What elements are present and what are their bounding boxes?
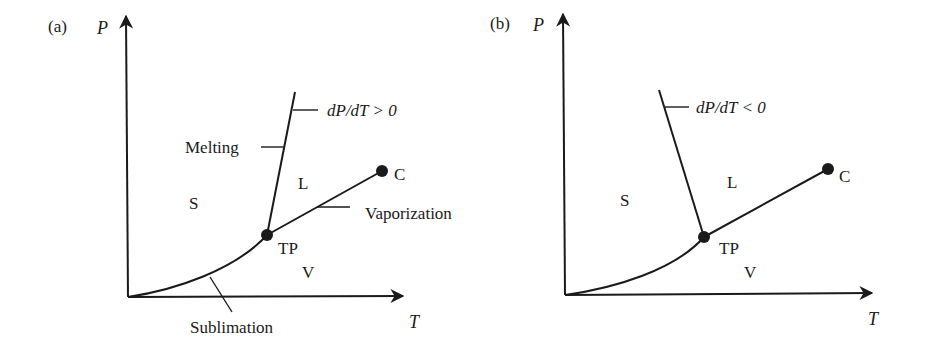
panel-a-x-axis-label: T [409, 312, 421, 332]
panel-a-melting-label: Melting [185, 138, 239, 157]
panel-a-critical-point-label: C [394, 165, 405, 184]
panel-b-critical-point-marker [822, 163, 834, 175]
panel-a-vaporization-label: Vaporization [365, 204, 452, 223]
panel-a-x-axis [128, 296, 403, 297]
phase-diagrams: (a) P T dP/dT > 0 Melting Vaporization S… [0, 0, 927, 346]
panel-b-critical-point-label: C [839, 167, 850, 186]
panel-a-critical-point-marker [376, 165, 388, 177]
panel-b-y-axis-label: P [532, 15, 544, 35]
panel-a-liquid-region-label: L [298, 174, 308, 193]
panel-a-vaporization-curve [267, 171, 382, 235]
panel-a-solid-region-label: S [189, 194, 198, 213]
panel-b-slope-annotation: dP/dT < 0 [696, 98, 766, 117]
panel-a-triple-point-marker [261, 229, 273, 241]
panel-b-sublimation-curve [565, 237, 704, 295]
panel-b-vapor-region-label: V [744, 263, 757, 282]
panel-b-x-axis [565, 293, 872, 295]
panel-a-melting-curve [267, 92, 295, 235]
panel-a-sublimation-leader [210, 277, 232, 312]
panel-a-label: (a) [48, 17, 67, 36]
panel-b-x-axis-label: T [868, 309, 880, 329]
panel-b-y-axis [563, 14, 565, 295]
panel-a: (a) P T dP/dT > 0 Melting Vaporization S… [48, 16, 452, 337]
panel-a-y-axis-label: P [96, 18, 108, 38]
panel-b-triple-point-marker [698, 231, 710, 243]
panel-a-slope-annotation: dP/dT > 0 [327, 101, 397, 120]
panel-b-solid-region-label: S [620, 191, 629, 210]
panel-b-triple-point-label: TP [719, 239, 739, 258]
panel-b: (b) P T dP/dT < 0 L S V TP C [490, 14, 880, 329]
panel-a-sublimation-curve [128, 235, 267, 297]
panel-b-liquid-region-label: L [727, 173, 737, 192]
panel-a-sublimation-label: Sublimation [190, 318, 274, 337]
panel-b-label: (b) [490, 14, 510, 33]
panel-a-triple-point-label: TP [278, 239, 298, 258]
panel-b-vaporization-curve [704, 169, 828, 237]
panel-a-y-axis [126, 16, 128, 297]
panel-a-vapor-region-label: V [302, 263, 315, 282]
